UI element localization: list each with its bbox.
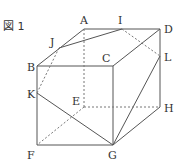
- vertex-label-h: H: [164, 102, 174, 115]
- edge-JK: [37, 48, 59, 93]
- edge-LG: [113, 56, 160, 145]
- edge-JI: [59, 29, 122, 48]
- vertex-label-g: G: [108, 149, 117, 162]
- vertex-label-f: F: [27, 149, 35, 162]
- solid-edges: [37, 29, 160, 145]
- vertex-label-b: B: [27, 61, 35, 74]
- vertex-label-e: E: [72, 95, 80, 108]
- hidden-edges: [37, 29, 160, 145]
- vertex-label-j: J: [49, 36, 54, 49]
- edge-CD: [113, 29, 160, 66]
- edge-GH: [113, 107, 160, 145]
- cube-diagram: A I D J L B C K E H F G: [0, 0, 182, 167]
- vertex-label-c: C: [102, 52, 110, 65]
- edge-EF: [37, 107, 84, 145]
- vertex-label-i: I: [118, 14, 122, 27]
- vertex-label-l: L: [164, 51, 172, 64]
- vertex-label-a: A: [79, 14, 89, 27]
- vertex-label-k: K: [27, 88, 36, 101]
- vertex-label-d: D: [164, 23, 173, 36]
